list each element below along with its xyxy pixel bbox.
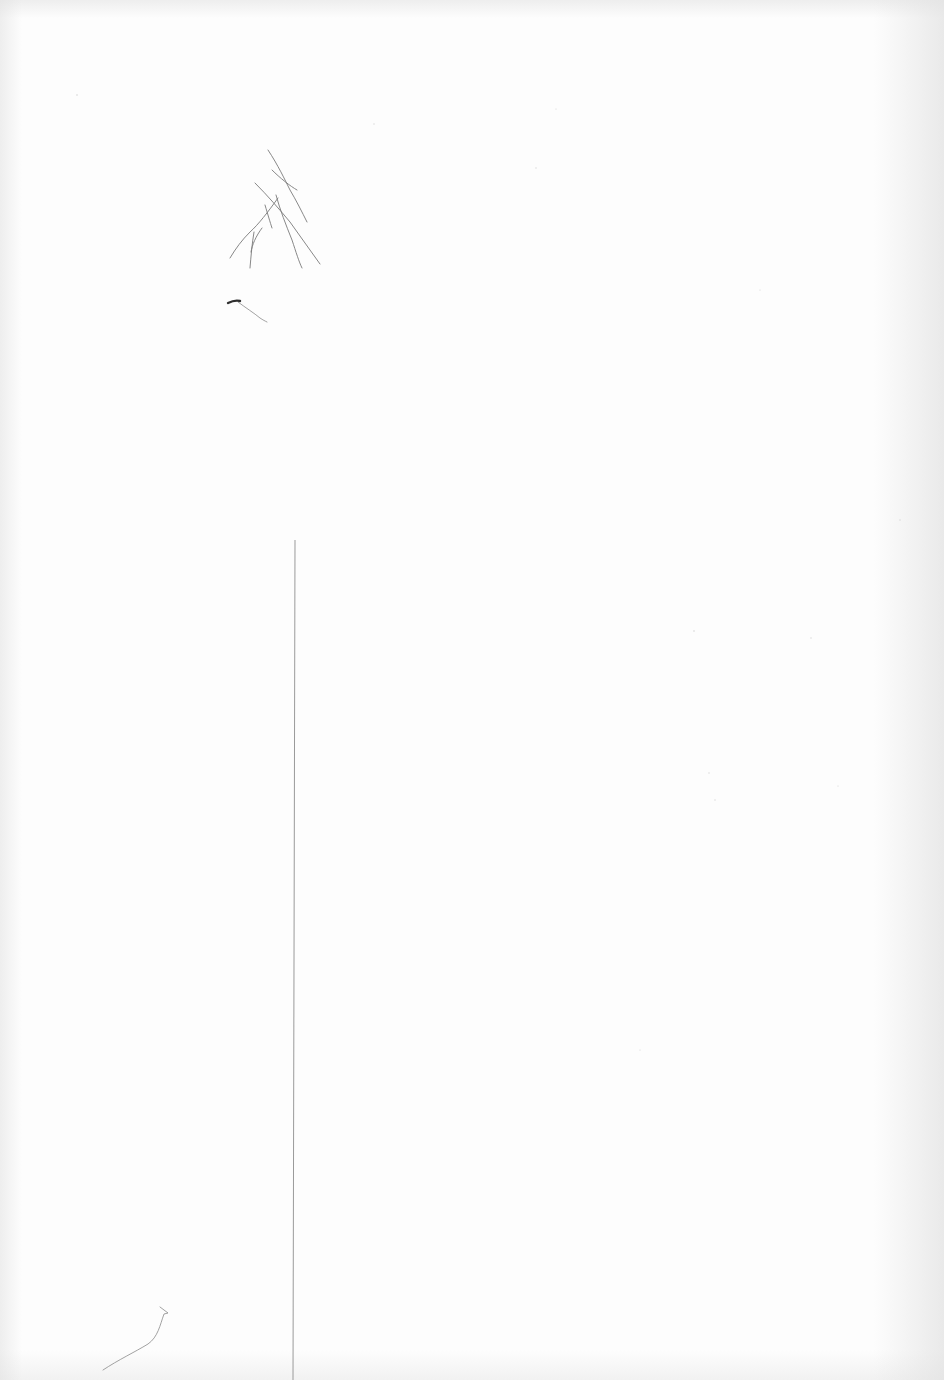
page-marks: [0, 0, 944, 1380]
fiber-cluster-top-left: [230, 150, 320, 268]
vertical-pencil-line: [293, 540, 295, 1380]
fiber-bottom-left: [103, 1307, 168, 1370]
scanned-page: [0, 0, 944, 1380]
paper-specks: [76, 94, 901, 1050]
fiber-fleck: [228, 301, 267, 322]
